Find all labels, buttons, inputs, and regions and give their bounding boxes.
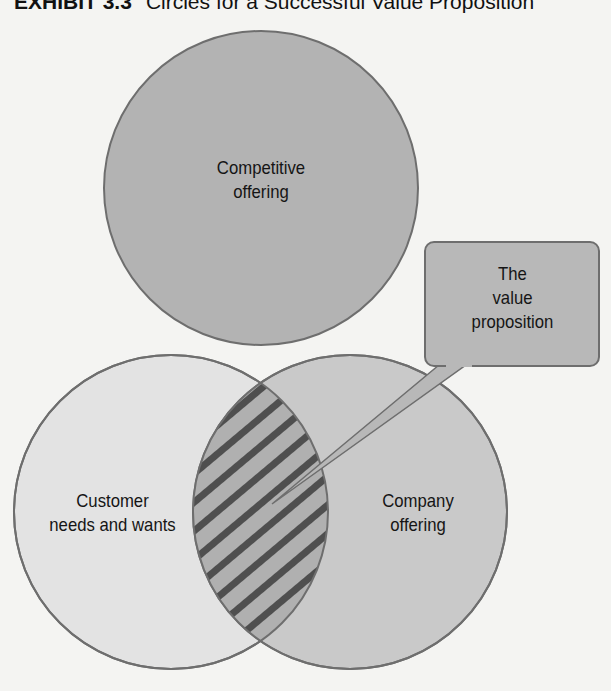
competitive-offering-label: Competitive offering <box>191 156 332 204</box>
label-line: Competitive <box>191 156 332 180</box>
label-line: offering <box>365 513 471 537</box>
label-line: The <box>449 262 577 286</box>
venn-diagram <box>0 0 611 691</box>
label-line: needs and wants <box>36 513 190 537</box>
callout-label: The value proposition <box>449 262 577 334</box>
label-line: value <box>449 286 577 310</box>
label-line: offering <box>191 180 332 204</box>
label-line: proposition <box>449 310 577 334</box>
label-line: Customer <box>36 489 190 513</box>
customer-needs-label: Customer needs and wants <box>36 489 190 537</box>
company-offering-label: Company offering <box>365 489 471 537</box>
label-line: Company <box>365 489 471 513</box>
